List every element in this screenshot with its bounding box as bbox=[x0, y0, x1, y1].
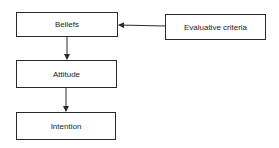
edge-evaluative-to-beliefs bbox=[119, 25, 165, 26]
node-intention: Intention bbox=[16, 112, 116, 140]
diagram-canvas: Beliefs Evaluative criteria Attitude Int… bbox=[0, 0, 279, 148]
node-beliefs: Beliefs bbox=[16, 12, 118, 37]
node-evaluative-criteria-label: Evaluative criteria bbox=[184, 23, 247, 32]
node-beliefs-label: Beliefs bbox=[55, 20, 79, 29]
node-attitude-label: Attitude bbox=[53, 70, 80, 79]
node-attitude: Attitude bbox=[16, 60, 117, 88]
node-intention-label: Intention bbox=[51, 122, 82, 131]
node-evaluative-criteria: Evaluative criteria bbox=[165, 14, 266, 40]
